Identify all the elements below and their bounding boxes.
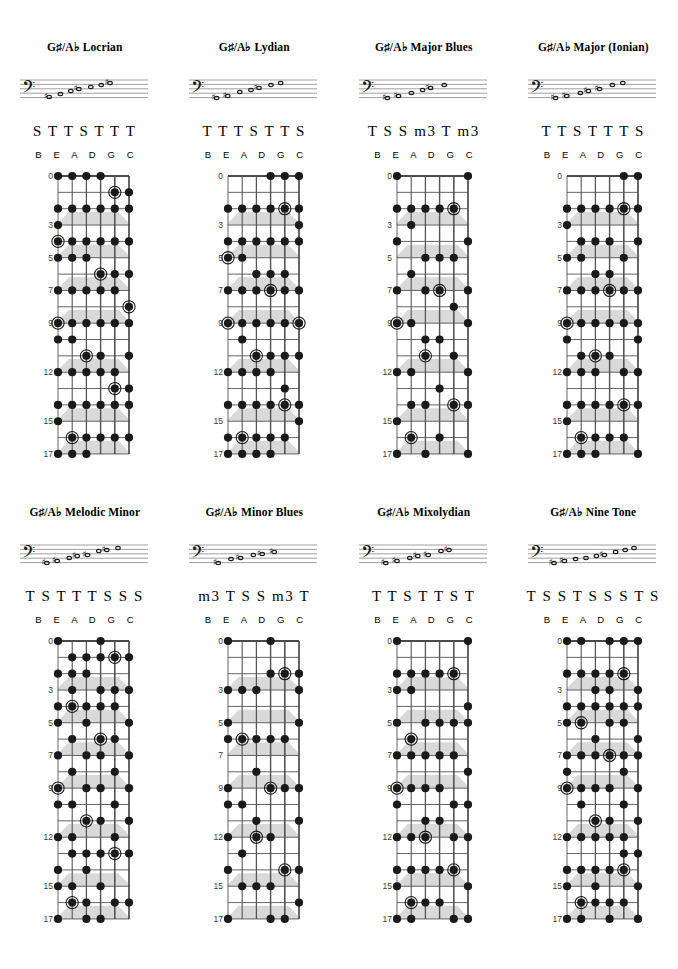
string-tuning-labels: B E A D G C <box>31 614 138 626</box>
fret-number-label: 12 <box>383 832 393 842</box>
staff-notation: 𝄢♯♯♯♯ <box>189 541 319 571</box>
root-note-dot <box>238 735 246 743</box>
scale-note-dot <box>605 833 613 841</box>
scale-note-dot <box>464 915 472 923</box>
scale-note-dot <box>436 335 444 343</box>
root-note-dot <box>97 735 105 743</box>
scale-note-dot <box>111 205 119 213</box>
scale-note-dot <box>407 784 415 792</box>
scale-note-dot <box>563 866 571 874</box>
scale-note-dot <box>97 352 105 360</box>
root-note-dot <box>577 719 585 727</box>
fretboard-diagram: 03579121517 <box>371 632 476 928</box>
scale-note-dot <box>238 254 246 262</box>
scale-note-dot <box>591 450 599 458</box>
scale-note-dot <box>83 784 91 792</box>
scale-note-dot <box>407 866 415 874</box>
root-note-dot <box>591 352 599 360</box>
root-note-dot <box>436 286 444 294</box>
fret-number-label: 7 <box>49 750 54 760</box>
scale-note-dot <box>125 817 133 825</box>
fret-number-label: 15 <box>213 881 223 891</box>
scale-note-dot <box>591 433 599 441</box>
scale-note-dot <box>54 205 62 213</box>
scale-note-dot <box>393 800 401 808</box>
scale-note-dot <box>436 898 444 906</box>
scale-note-dot <box>266 450 274 458</box>
scale-note-dot <box>436 670 444 678</box>
scale-note-dot <box>54 637 62 645</box>
scale-note-dot <box>266 433 274 441</box>
scale-note-dot <box>125 205 133 213</box>
scale-note-dot <box>577 450 585 458</box>
scale-note-dot <box>97 433 105 441</box>
fret-number-labels: 03579121517 <box>213 636 223 924</box>
scale-note-dot <box>563 719 571 727</box>
scale-note-dot <box>393 237 401 245</box>
fret-number-label: 0 <box>388 171 393 181</box>
string-tuning-labels: B E A D G C <box>540 614 647 626</box>
scale-note-dot <box>634 882 642 890</box>
scale-note-dot <box>224 784 232 792</box>
interval-step-pattern: T S S T S S S T S <box>527 587 660 605</box>
scale-note-dot <box>238 368 246 376</box>
root-note-dot <box>111 653 119 661</box>
scale-note-dot <box>563 221 571 229</box>
scale-note-dot <box>563 254 571 262</box>
root-note-dot <box>97 270 105 278</box>
fret-number-label: 12 <box>552 367 562 377</box>
bass-clef-icon: 𝄢 <box>530 77 544 101</box>
scale-note-dot <box>54 254 62 262</box>
scale-note-dot <box>634 784 642 792</box>
scale-panel-minor-blues: G♯/A♭ Minor Blues𝄢♯♯♯♯m3 T S S m3 TB E A… <box>170 505 340 928</box>
scale-note-dot <box>619 319 627 327</box>
scale-note-dot <box>68 735 76 743</box>
scale-note-dot <box>252 768 260 776</box>
scale-note-dot <box>252 817 260 825</box>
scale-note-dot <box>619 898 627 906</box>
scale-note-dot <box>295 719 303 727</box>
fret-number-label: 5 <box>49 718 54 728</box>
scale-note-dot <box>464 702 472 710</box>
scale-title: G♯/A♭ Mixolydian <box>377 505 470 519</box>
scale-note-dot <box>563 833 571 841</box>
scale-note-dot <box>591 833 599 841</box>
scale-note-dot <box>393 719 401 727</box>
root-note-dot <box>591 817 599 825</box>
scale-note-dot <box>111 401 119 409</box>
notation-staff: 𝄢♯♯♯ <box>359 76 487 106</box>
scale-note-dot <box>563 670 571 678</box>
string-tuning-labels: B E A D G C <box>370 149 477 161</box>
scale-note-dot <box>125 849 133 857</box>
scale-note-dot <box>634 319 642 327</box>
scale-note-dot <box>464 450 472 458</box>
scale-note-dot <box>68 833 76 841</box>
scale-note-dot <box>125 653 133 661</box>
scale-note-dot <box>464 237 472 245</box>
fretboard-diagram: 03579121517 <box>202 632 307 928</box>
fretboard: 03579121517 <box>202 167 307 463</box>
fret-number-labels: 03579121517 <box>44 171 54 459</box>
scale-title: G♯/A♭ Minor Blues <box>205 505 303 519</box>
scale-note-dot <box>407 205 415 213</box>
scale-note-dot <box>125 270 133 278</box>
root-note-dot <box>563 319 571 327</box>
staff-notation: 𝄢♯♯♯♯♯ <box>359 541 489 571</box>
scale-note-dot <box>563 401 571 409</box>
scale-note-dot <box>295 401 303 409</box>
scale-note-dot <box>422 784 430 792</box>
scale-note-dot <box>422 719 430 727</box>
staff-notation: 𝄢♯♯♯ <box>359 76 489 106</box>
string-tuning-labels: B E A D G C <box>370 614 477 626</box>
scale-note-dot <box>266 368 274 376</box>
scale-note-dot <box>97 205 105 213</box>
fret-inlay-markers <box>565 677 640 919</box>
scale-note-dot <box>450 303 458 311</box>
scale-note-dot <box>634 915 642 923</box>
scale-note-dot <box>68 849 76 857</box>
fret-number-label: 5 <box>557 718 562 728</box>
scale-title: G♯/A♭ Melodic Minor <box>29 505 140 519</box>
scale-note-dot <box>68 686 76 694</box>
scale-note-dot <box>591 866 599 874</box>
scale-note-dot <box>295 686 303 694</box>
